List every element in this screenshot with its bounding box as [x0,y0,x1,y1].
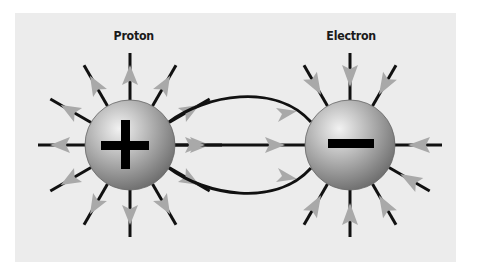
electron-sphere [305,100,395,190]
proton-sphere [85,100,175,190]
minus-sign-icon [328,139,374,148]
proton-label: Proton [114,28,154,43]
electron-label: Electron [326,28,376,43]
field-diagram [0,0,483,274]
